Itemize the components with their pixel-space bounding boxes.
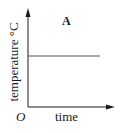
x-axis-label: time	[55, 110, 78, 123]
y-axis-label: temperature °C	[7, 22, 20, 101]
panel-label: A	[62, 15, 71, 27]
temperature-time-chart: A temperature °C O time	[0, 0, 120, 133]
x-axis-arrow-icon	[106, 105, 115, 110]
y-axis-arrow-icon	[26, 8, 31, 17]
origin-label: O	[16, 110, 25, 123]
